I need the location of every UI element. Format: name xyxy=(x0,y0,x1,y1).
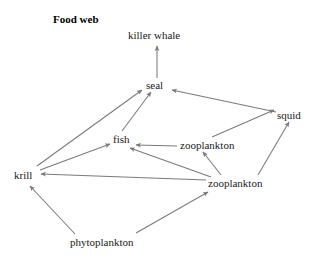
node-fish: fish xyxy=(113,133,130,145)
node-krill: krill xyxy=(14,169,32,181)
node-seal: seal xyxy=(146,79,163,91)
node-zooplankton-upper: zooplankton xyxy=(180,139,234,151)
figure-title: Food web xyxy=(53,13,99,25)
edge-zooplankton-lower-fish xyxy=(130,148,211,177)
edge-squid-seal xyxy=(172,90,276,112)
node-killer-whale: killer whale xyxy=(128,29,180,41)
edge-zooplankton-lower-krill xyxy=(41,174,206,180)
food-web-diagram: Food web killer whale seal squid zooplan… xyxy=(0,0,319,260)
edge-fish-seal xyxy=(122,92,151,131)
node-zooplankton-lower: zooplankton xyxy=(208,177,262,189)
edge-phytoplankton-krill xyxy=(30,186,75,234)
edge-zooplankton-upper-fish xyxy=(136,145,177,146)
edge-zooplankton-lower-squid xyxy=(258,122,289,175)
edge-krill-seal xyxy=(37,90,142,166)
node-phytoplankton: phytoplankton xyxy=(70,236,134,248)
edge-phytoplankton-zooplankton-lower xyxy=(136,192,208,233)
edge-zooplankton-upper-squid xyxy=(212,110,274,137)
edge-zooplankton-lower-upper xyxy=(203,152,221,175)
edge-krill-fish xyxy=(40,144,110,170)
node-squid: squid xyxy=(277,109,301,121)
